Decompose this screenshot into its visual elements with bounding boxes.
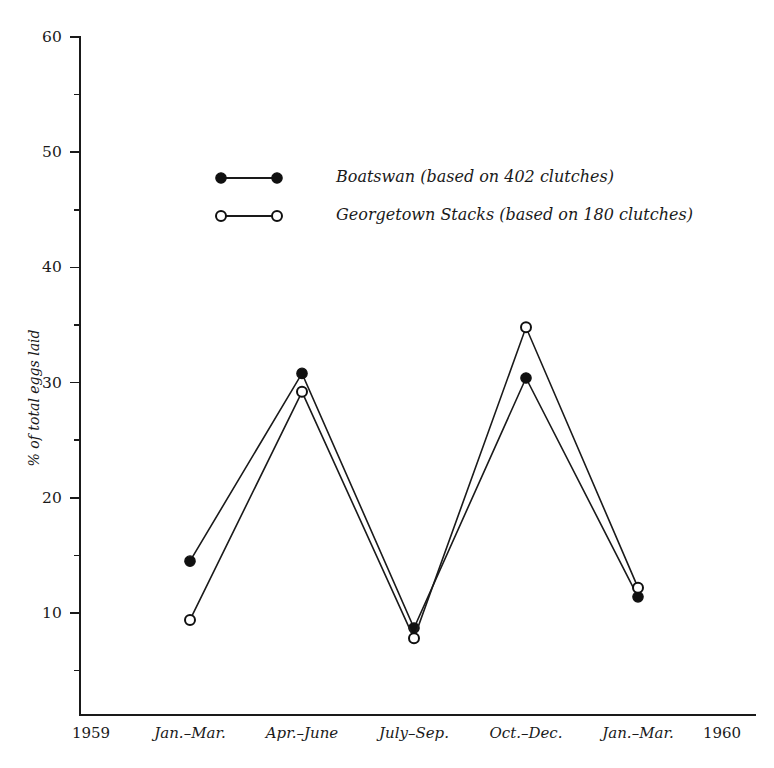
y-tick-50 — [70, 151, 80, 153]
y-minor-tick-35 — [74, 324, 80, 326]
data-point-s1-4 — [633, 583, 643, 593]
legend-label-0: Boatswan (based on 402 clutches) — [336, 167, 614, 186]
data-point-s1-1 — [297, 387, 307, 397]
x-axis-label-4: Jan.–Mar. — [602, 724, 673, 742]
data-point-s0-1 — [297, 368, 307, 378]
data-point-s1-3 — [521, 322, 531, 332]
x-axis-start-year-label: 1959 — [72, 724, 110, 742]
x-axis-label-2: July–Sep. — [379, 724, 449, 742]
y-minor-tick-55 — [74, 94, 80, 96]
filled-circle-icon — [212, 168, 286, 188]
y-tick-label-50: 50 — [28, 143, 62, 161]
y-minor-tick-25 — [74, 439, 80, 441]
x-axis-line — [79, 714, 756, 716]
data-point-s1-0 — [185, 615, 195, 625]
y-tick-label-10: 10 — [28, 604, 62, 622]
y-axis-title: % of total eggs laid — [26, 298, 42, 498]
legend-label-1: Georgetown Stacks (based on 180 clutches… — [336, 205, 693, 224]
series-line-0 — [190, 373, 638, 628]
y-tick-label-40: 40 — [28, 258, 62, 276]
chart-figure: % of total eggs laid 102030405060 1959Ja… — [0, 0, 774, 768]
y-minor-tick-45 — [74, 209, 80, 211]
x-axis-label-1: Apr.–June — [266, 724, 338, 742]
y-tick-label-60: 60 — [28, 28, 62, 46]
data-point-s0-0 — [185, 556, 195, 566]
y-tick-60 — [70, 36, 80, 38]
x-axis-label-3: Oct.–Dec. — [489, 724, 562, 742]
y-minor-tick-15 — [74, 555, 80, 557]
x-axis-end-year-label: 1960 — [703, 724, 741, 742]
data-point-s1-2 — [409, 633, 419, 643]
y-tick-20 — [70, 497, 80, 499]
y-tick-40 — [70, 267, 80, 269]
series-line-1 — [190, 327, 638, 638]
y-tick-10 — [70, 612, 80, 614]
data-point-s0-4 — [633, 592, 643, 602]
open-circle-icon — [212, 206, 286, 226]
y-minor-tick-5 — [74, 670, 80, 672]
x-axis-label-0: Jan.–Mar. — [154, 724, 225, 742]
data-point-s0-3 — [521, 373, 531, 383]
y-tick-label-30: 30 — [28, 374, 62, 392]
plot-area — [0, 0, 774, 768]
y-tick-label-20: 20 — [28, 489, 62, 507]
y-tick-30 — [70, 382, 80, 384]
data-point-s0-2 — [409, 623, 419, 633]
